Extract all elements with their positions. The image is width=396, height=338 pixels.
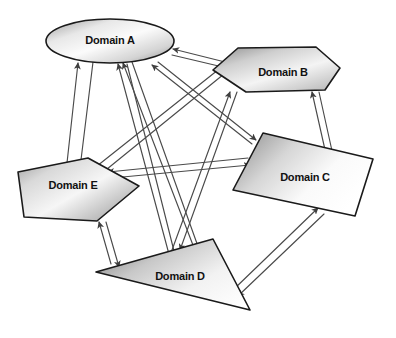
edge-domain-e-to-domain-a (66, 63, 78, 172)
edge-domain-d-to-domain-e (99, 222, 111, 264)
nodes-layer: Domain A Domain B Domain C Domain D Doma… (18, 19, 373, 310)
edge-domain-d-to-domain-a (118, 64, 170, 258)
domain-diagram: Domain A Domain B Domain C Domain D Doma… (0, 0, 396, 338)
domain-d-label: Domain D (155, 270, 205, 282)
domain-e-label: Domain E (48, 179, 97, 191)
domain-b-label: Domain B (258, 66, 308, 78)
edge-domain-c-to-domain-e (108, 158, 248, 172)
edge-domain-b-to-domain-a (173, 49, 225, 62)
edge-domain-d-to-domain-c (233, 208, 318, 290)
edge-domain-a-to-domain-e (80, 62, 93, 168)
edge-domain-c-to-domain-d (238, 214, 324, 296)
node-domain-c[interactable]: Domain C (233, 133, 373, 216)
diagram-canvas: Domain A Domain B Domain C Domain D Doma… (0, 0, 396, 338)
node-domain-b[interactable]: Domain B (213, 47, 340, 92)
node-domain-d[interactable]: Domain D (96, 239, 250, 310)
domain-c-label: Domain C (280, 171, 330, 183)
edge-domain-e-to-domain-d (106, 222, 119, 267)
edge-domain-e-to-domain-c (112, 165, 250, 178)
node-domain-a[interactable]: Domain A (46, 19, 174, 63)
node-domain-e[interactable]: Domain E (18, 158, 139, 221)
domain-a-label: Domain A (85, 34, 135, 46)
